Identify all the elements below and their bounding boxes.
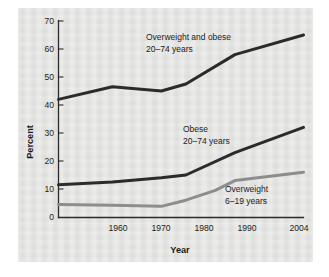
annotation-overweight-and-obese: Overweight and obese 20–74 years xyxy=(146,32,231,54)
x-tick-label-1960: 1960 xyxy=(108,223,127,233)
annotation-line-1: Overweight and obese xyxy=(146,32,231,42)
annotation-line-1: Overweight xyxy=(225,184,269,194)
line-chart: 70 60 50 40 30 20 10 0 Percent 1960 1970… xyxy=(0,0,329,277)
y-axis-title: Percent xyxy=(25,125,35,159)
y-axis-ticks xyxy=(59,21,64,189)
x-tick-label-1990: 1990 xyxy=(237,223,256,233)
y-tick-label-70: 70 xyxy=(44,16,54,26)
x-tick-label-1980: 1980 xyxy=(194,223,213,233)
annotation-obese: Obese 20–74 years xyxy=(183,124,230,146)
x-tick-label-2004: 2004 xyxy=(289,223,308,233)
y-tick-label-40: 40 xyxy=(44,100,54,110)
x-axis-title: Year xyxy=(170,245,190,255)
annotation-line-2: 6–19 years xyxy=(225,196,267,206)
y-tick-label-30: 30 xyxy=(44,128,54,138)
annotation-line-2: 20–74 years xyxy=(146,44,193,54)
y-tick-label-20: 20 xyxy=(44,156,54,166)
annotation-line-1: Obese xyxy=(183,124,208,134)
y-tick-label-0: 0 xyxy=(49,212,54,222)
chart-figure: 70 60 50 40 30 20 10 0 Percent 1960 1970… xyxy=(0,0,329,277)
y-tick-label-10: 10 xyxy=(44,184,54,194)
annotation-overweight-6-19: Overweight 6–19 years xyxy=(225,184,269,206)
x-tick-label-1970: 1970 xyxy=(151,223,170,233)
y-tick-label-60: 60 xyxy=(44,44,54,54)
annotation-line-2: 20–74 years xyxy=(183,136,230,146)
y-tick-label-50: 50 xyxy=(44,72,54,82)
